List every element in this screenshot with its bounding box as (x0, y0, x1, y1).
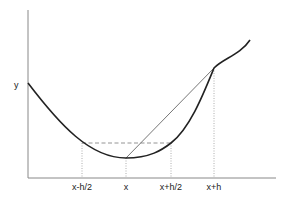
y-axis-label: y (14, 80, 19, 90)
tick-label-x-minus-h-half: x-h/2 (72, 182, 92, 192)
tick-label-x: x (124, 182, 129, 192)
convex-curve (28, 40, 250, 158)
tick-label-x-plus-h-half: x+h/2 (160, 182, 182, 192)
diagram-canvas: y x-h/2 x x+h/2 x+h (0, 0, 286, 200)
tick-label-x-plus-h: x+h (207, 182, 222, 192)
